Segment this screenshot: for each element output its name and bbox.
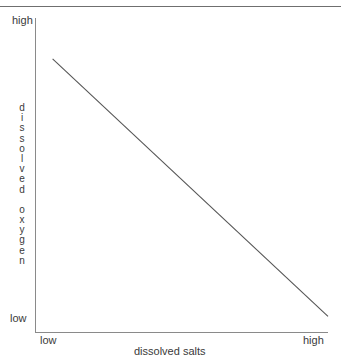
x-axis-max-label: high	[303, 334, 324, 346]
chart-figure: high low low high dissolved salts dissol…	[0, 0, 347, 364]
plot-area	[0, 0, 347, 364]
y-axis-title-letter: d	[15, 185, 29, 195]
y-axis-max-label: high	[12, 14, 33, 26]
y-axis-min-label: low	[10, 312, 27, 324]
y-axis-title: dissolved oxygen	[15, 103, 29, 266]
data-line-series-1	[53, 59, 328, 317]
x-axis-title: dissolved salts	[134, 345, 206, 357]
x-axis-min-label: low	[40, 334, 57, 346]
y-axis-title-letter: n	[15, 256, 29, 266]
y-axis-title-letter: e	[15, 174, 29, 184]
